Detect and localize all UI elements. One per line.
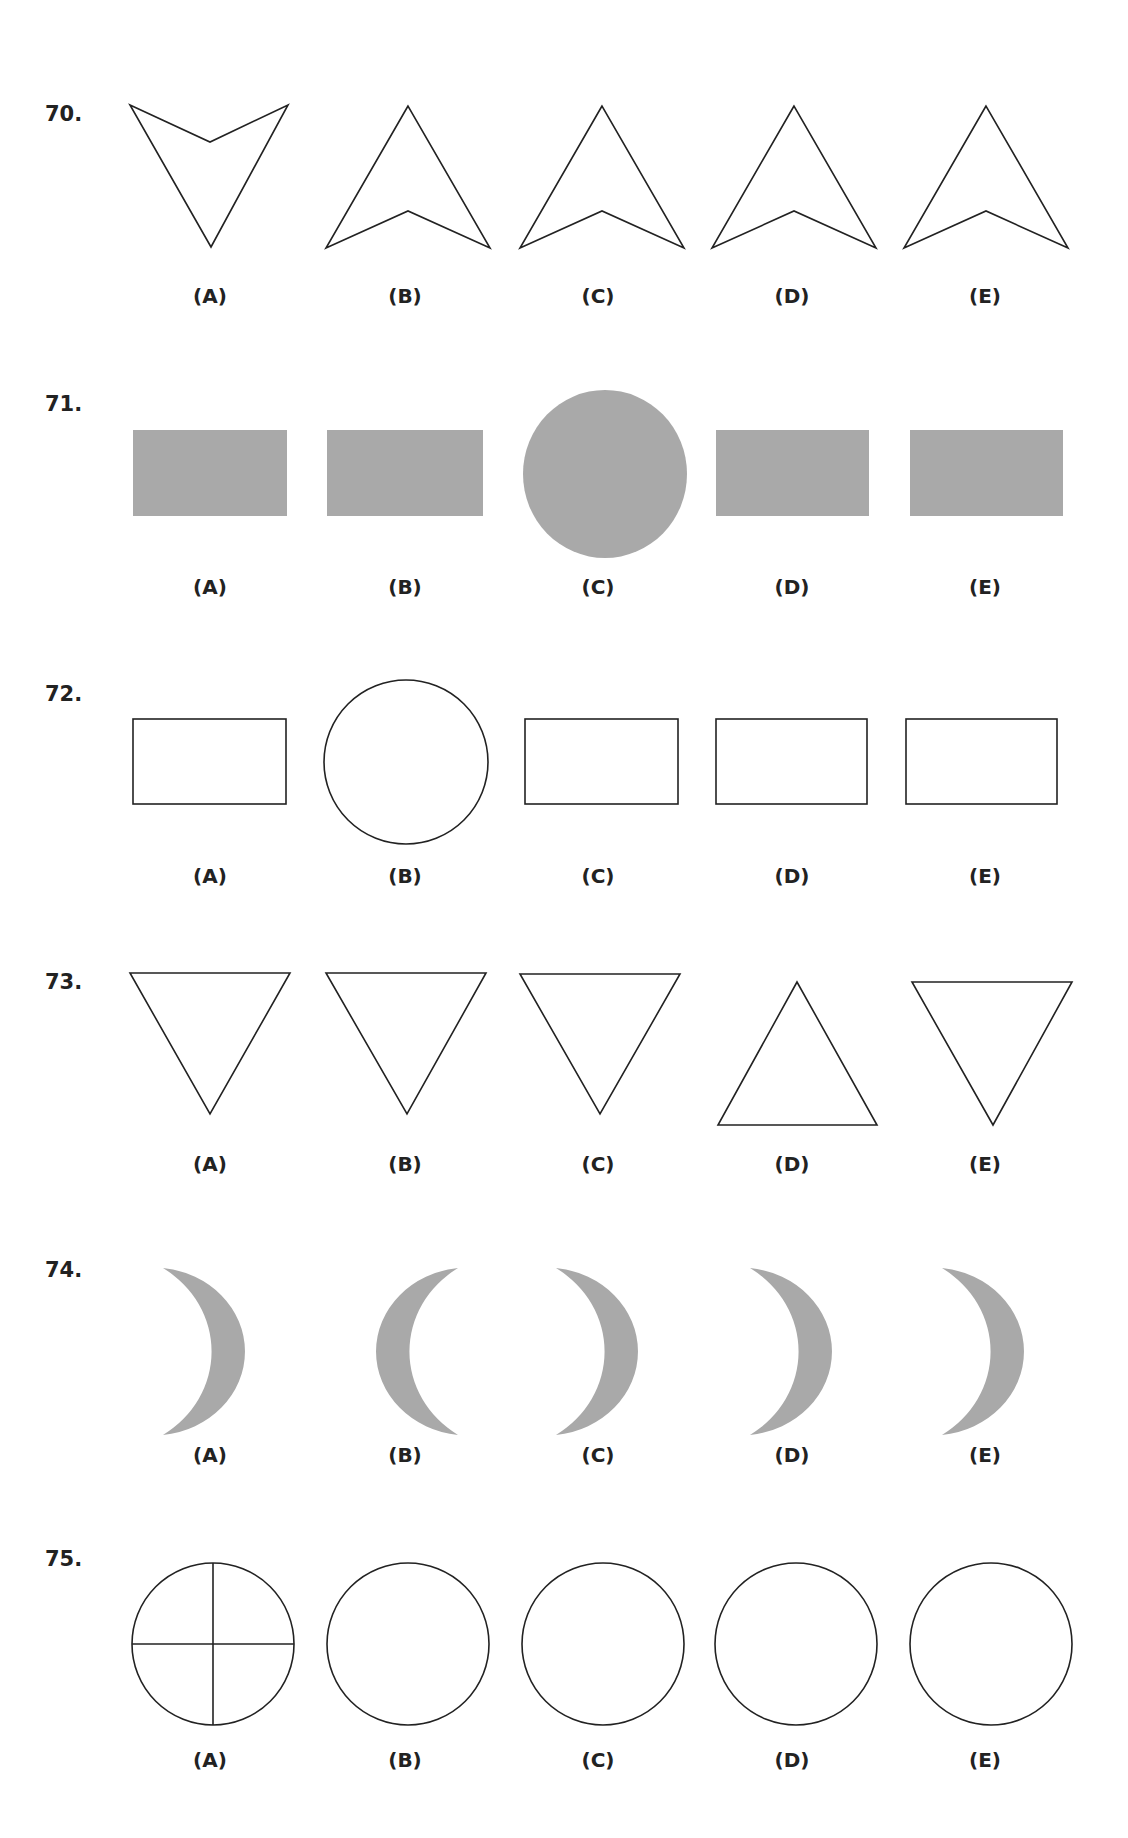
triangle-down-shape [130, 973, 290, 1114]
crescent-shape [376, 1268, 458, 1435]
arrowhead-down-shape [130, 105, 288, 247]
row-73-figures [130, 973, 1072, 1125]
option-label-71c: (C) [568, 575, 628, 599]
option-label-72d: (D) [762, 864, 822, 888]
option-label-75b: (B) [375, 1748, 435, 1772]
arrowhead-up-shape [520, 106, 684, 248]
option-label-70a: (A) [180, 284, 240, 308]
option-label-74b: (B) [375, 1443, 435, 1467]
option-label-74d: (D) [762, 1443, 822, 1467]
option-label-71e: (E) [955, 575, 1015, 599]
crescent-shape [556, 1268, 638, 1435]
option-label-71a: (A) [180, 575, 240, 599]
option-label-73c: (C) [568, 1152, 628, 1176]
option-label-75a: (A) [180, 1748, 240, 1772]
gray-rectangle-shape [133, 430, 287, 516]
option-label-74a: (A) [180, 1443, 240, 1467]
gray-rectangle-shape [910, 430, 1063, 516]
option-label-75d: (D) [762, 1748, 822, 1772]
option-label-75e: (E) [955, 1748, 1015, 1772]
option-label-71d: (D) [762, 575, 822, 599]
outline-rectangle-shape [906, 719, 1057, 804]
option-label-72e: (E) [955, 864, 1015, 888]
option-label-73a: (A) [180, 1152, 240, 1176]
option-label-70c: (C) [568, 284, 628, 308]
circle-with-cross-shape [132, 1563, 294, 1725]
triangle-down-shape [520, 974, 680, 1114]
arrowhead-up-shape [904, 106, 1068, 248]
outline-rectangle-shape [133, 719, 286, 804]
triangle-down-shape [912, 982, 1072, 1125]
triangle-down-shape [326, 973, 486, 1114]
option-label-72a: (A) [180, 864, 240, 888]
option-label-72c: (C) [568, 864, 628, 888]
option-label-73b: (B) [375, 1152, 435, 1176]
arrowhead-up-shape [712, 106, 876, 248]
row-70-figures [130, 105, 1068, 248]
outline-circle-shape [910, 1563, 1072, 1725]
row-72-figures [133, 680, 1057, 844]
crescent-shape [942, 1268, 1024, 1435]
crescent-shape [163, 1268, 245, 1435]
outline-rectangle-shape [716, 719, 867, 804]
option-label-74c: (C) [568, 1443, 628, 1467]
gray-rectangle-shape [716, 430, 869, 516]
outline-circle-shape [715, 1563, 877, 1725]
triangle-up-shape [718, 982, 877, 1125]
option-label-75c: (C) [568, 1748, 628, 1772]
option-label-70d: (D) [762, 284, 822, 308]
option-label-72b: (B) [375, 864, 435, 888]
option-label-73d: (D) [762, 1152, 822, 1176]
row-75-figures [132, 1563, 1072, 1725]
option-label-71b: (B) [375, 575, 435, 599]
outline-circle-shape [327, 1563, 489, 1725]
option-label-70b: (B) [375, 284, 435, 308]
arrowhead-up-shape [326, 106, 490, 248]
outline-rectangle-shape [525, 719, 678, 804]
option-label-70e: (E) [955, 284, 1015, 308]
outline-circle-shape [522, 1563, 684, 1725]
figures-canvas [0, 0, 1128, 1838]
row-74-figures [163, 1268, 1024, 1435]
crescent-shape [750, 1268, 832, 1435]
option-label-73e: (E) [955, 1152, 1015, 1176]
gray-circle-shape [523, 390, 687, 558]
row-71-figures [133, 390, 1063, 558]
outline-circle-shape [324, 680, 488, 844]
option-label-74e: (E) [955, 1443, 1015, 1467]
gray-rectangle-shape [327, 430, 483, 516]
